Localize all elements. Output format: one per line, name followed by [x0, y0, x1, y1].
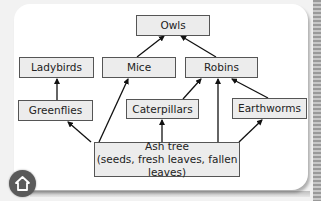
node-sublabel: (seeds, fresh leaves, fallen leaves): [95, 153, 239, 179]
node-label: Caterpillars: [132, 103, 192, 116]
node-label: Mice: [127, 61, 151, 74]
node-caterpillars: Caterpillars: [126, 99, 199, 119]
arrow-caterpillars-to-robins: [183, 79, 201, 99]
home-icon: [14, 175, 31, 192]
node-ash-tree: Ash tree (seeds, fresh leaves, fallen le…: [94, 142, 240, 177]
arrow-ashtree-to-greenflies: [68, 122, 91, 142]
arrow-mice-to-owls: [137, 36, 164, 57]
node-label: Ladybirds: [31, 61, 82, 74]
node-earthworms: Earthworms: [232, 98, 307, 119]
node-owls: Owls: [136, 15, 210, 36]
node-label: Robins: [204, 61, 239, 74]
arrow-earthworms-to-robins: [232, 79, 268, 98]
node-ladybirds: Ladybirds: [19, 57, 94, 78]
node-label: Earthworms: [238, 102, 301, 115]
arrow-ashtree-to-mice: [99, 79, 128, 142]
home-button[interactable]: [9, 170, 36, 197]
node-mice: Mice: [102, 57, 176, 78]
node-robins: Robins: [185, 57, 258, 78]
node-greenflies: Greenflies: [18, 100, 93, 121]
arrow-robins-to-owls: [181, 36, 216, 57]
node-label: Ash tree: [145, 140, 189, 153]
node-label: Owls: [160, 19, 185, 32]
arrow-ashtree-to-earthworms: [239, 120, 262, 142]
node-label: Greenflies: [29, 104, 82, 117]
